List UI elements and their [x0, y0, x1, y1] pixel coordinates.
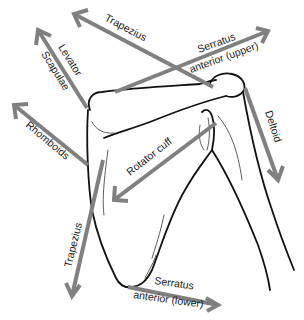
label-deltoid: Deltoid: [263, 109, 285, 144]
label-rotator-cuff: Rotator cuff: [124, 135, 174, 178]
arrow-rotator-cuff: [114, 123, 216, 201]
label-serratus-lower-line1: Serratus: [154, 274, 195, 291]
arrow-trapezius-upper: [74, 10, 213, 87]
scapula-outline: [87, 73, 294, 290]
label-serratus-lower-line2: anterior (lower): [133, 288, 205, 310]
scapula-muscle-diagram: Trapezius Levator Scapulae Serratus ante…: [0, 0, 304, 320]
label-trapezius-upper: Trapezius: [103, 11, 149, 43]
label-rhomboids: Rhomboids: [24, 118, 72, 161]
